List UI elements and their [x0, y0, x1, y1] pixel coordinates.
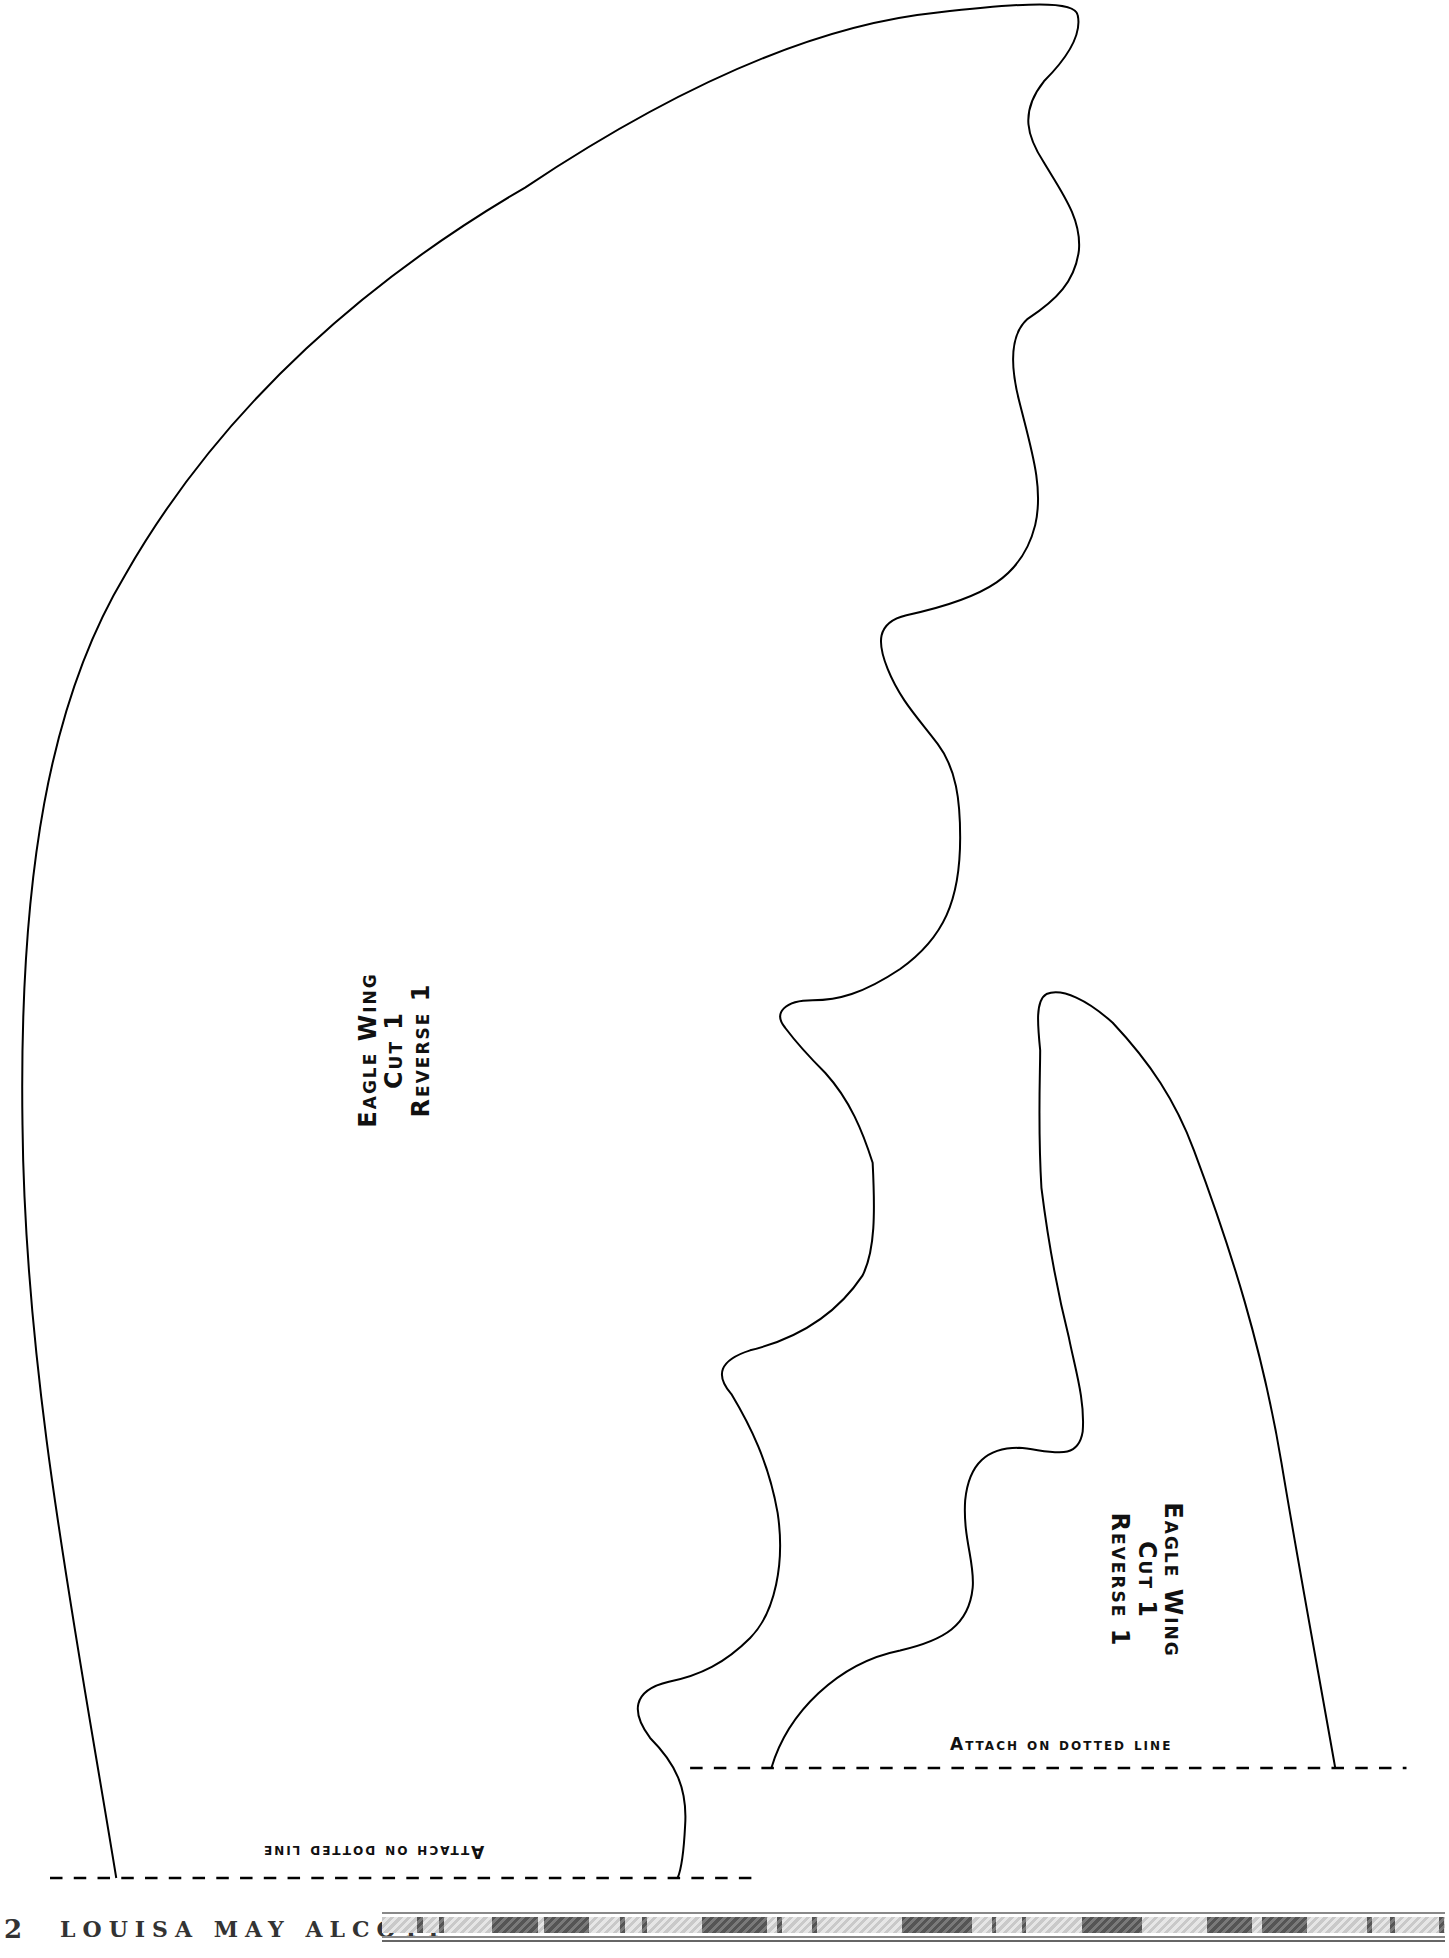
large-wing-outline [22, 4, 1079, 1878]
pattern-outlines [0, 0, 1449, 1958]
small-wing-outline [771, 992, 1335, 1768]
piece-name: Eagle Wing [355, 972, 381, 1127]
cut-count: Cut 1 [382, 972, 408, 1127]
reverse-count: Reverse 1 [408, 972, 434, 1127]
page-number: 2 [4, 1914, 22, 1944]
cut-count: Cut 1 [1133, 1502, 1159, 1657]
decorative-footer-bar [382, 1912, 1445, 1942]
page-footer: 2 LOUISA MAY ALCOTT [0, 1912, 1449, 1948]
small-wing-label: Eagle Wing Cut 1 Reverse 1 [1106, 1502, 1185, 1657]
attach-instruction-right: Attach on dotted line [950, 1734, 1172, 1754]
attach-instruction-left: Attach on dotted line [262, 1842, 484, 1862]
large-wing-label: Eagle Wing Cut 1 Reverse 1 [355, 972, 434, 1127]
piece-name: Eagle Wing [1159, 1502, 1185, 1657]
reverse-count: Reverse 1 [1106, 1502, 1132, 1657]
